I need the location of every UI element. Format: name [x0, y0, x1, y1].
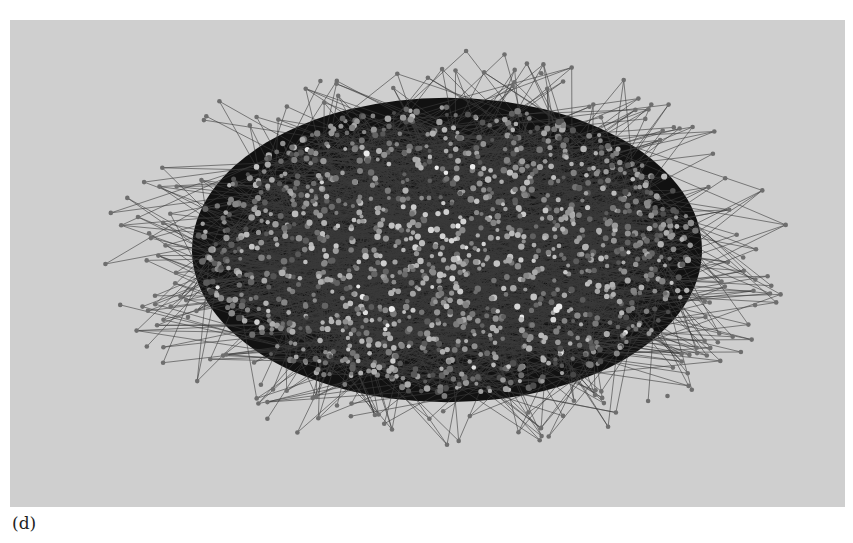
network-graph — [10, 20, 845, 507]
panel-label: (d) — [12, 513, 36, 533]
network-graph-panel — [10, 20, 845, 507]
